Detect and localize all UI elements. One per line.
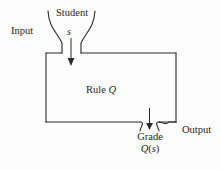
rule-box-label-prefix: Rule <box>86 84 106 95</box>
grade-expression-close-paren: ) <box>156 143 160 154</box>
input-arrow <box>68 38 75 66</box>
rule-box-label: Rule Q <box>86 84 116 95</box>
output-label: Output <box>182 124 211 135</box>
student-variable-label: s <box>67 26 71 37</box>
student-source-label: Student <box>56 7 88 18</box>
grade-label: Grade <box>131 131 169 142</box>
output-funnel-group <box>140 122 176 131</box>
output-funnel-left-curve <box>140 122 142 131</box>
input-label: Input <box>11 25 33 36</box>
grade-expression-label: Q(s) <box>131 143 169 154</box>
output-arrow <box>146 108 153 130</box>
rule-q-diagram: Input Student s Rule Q Output Grade Q(s) <box>0 0 221 170</box>
output-funnel-right-curve <box>157 122 159 131</box>
rule-box-label-variable: Q <box>108 84 116 95</box>
